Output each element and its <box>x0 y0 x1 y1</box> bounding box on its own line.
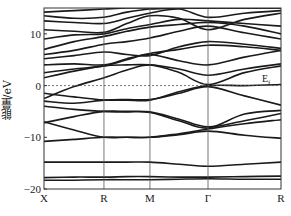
band-line <box>44 176 281 178</box>
band-line <box>44 64 281 78</box>
band-line <box>44 179 281 181</box>
band-line <box>44 85 281 101</box>
band-line <box>44 87 281 106</box>
band-lines <box>44 8 281 180</box>
band-line <box>44 162 281 166</box>
x-tick-R-end: R <box>271 192 291 204</box>
x-tick-X: X <box>34 192 54 204</box>
band-structure-chart <box>0 0 291 216</box>
fermi-level-label: Ef <box>262 74 270 88</box>
y-tick-10: 10 <box>17 28 41 40</box>
x-tick-M: M <box>140 192 160 204</box>
y-axis-label: 能量/eV <box>1 80 15 120</box>
y-tick-0: 0 <box>17 80 41 92</box>
x-tick-R: R <box>94 192 114 204</box>
x-tick-Gamma: Γ <box>198 192 218 204</box>
band-line <box>44 106 281 128</box>
y-tick-minus-10: −10 <box>17 131 41 143</box>
